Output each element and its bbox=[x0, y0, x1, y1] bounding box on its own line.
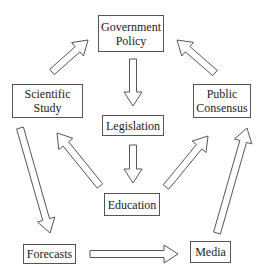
node-label: Legislation bbox=[106, 119, 160, 133]
node-label-line: Forecasts bbox=[27, 247, 72, 261]
node-education: Education bbox=[104, 193, 160, 216]
node-label-line: Media bbox=[195, 245, 226, 259]
node-legislation: Legislation bbox=[102, 115, 164, 136]
node-label-line: Legislation bbox=[106, 119, 160, 133]
node-label: GovernmentPolicy bbox=[101, 20, 161, 48]
arrow-education-to-scientific-study bbox=[57, 133, 103, 188]
node-label-line: Consensus bbox=[196, 101, 247, 115]
arrow-scientific-study-to-government-policy bbox=[50, 40, 88, 75]
node-label: PublicConsensus bbox=[196, 87, 247, 115]
arrow-forecasts-to-media bbox=[90, 245, 178, 263]
arrow-scientific-study-to-forecasts bbox=[17, 127, 55, 233]
arrow-legislation-to-education bbox=[124, 145, 142, 183]
node-label-line: Government bbox=[101, 20, 161, 34]
diagram-canvas: GovernmentPolicyScientificStudyPublicCon… bbox=[0, 0, 261, 277]
node-public-consensus: PublicConsensus bbox=[193, 84, 251, 118]
node-forecasts: Forecasts bbox=[23, 244, 76, 264]
node-scientific-study: ScientificStudy bbox=[12, 84, 83, 118]
node-label: Education bbox=[108, 198, 157, 212]
node-label-line: Policy bbox=[101, 34, 161, 48]
arrow-education-to-public-consensus bbox=[163, 136, 208, 189]
node-government-policy: GovernmentPolicy bbox=[98, 15, 164, 52]
node-media: Media bbox=[190, 241, 231, 263]
node-label: ScientificStudy bbox=[25, 87, 71, 115]
node-label: Media bbox=[195, 245, 226, 259]
node-label: Forecasts bbox=[27, 247, 72, 261]
node-label-line: Scientific bbox=[25, 87, 71, 101]
arrow-media-to-public-consensus bbox=[214, 128, 252, 234]
node-label-line: Study bbox=[25, 101, 71, 115]
arrow-public-consensus-to-government-policy bbox=[177, 40, 217, 76]
node-label-line: Education bbox=[108, 198, 157, 212]
arrow-government-policy-to-legislation bbox=[124, 59, 142, 106]
node-label-line: Public bbox=[196, 87, 247, 101]
